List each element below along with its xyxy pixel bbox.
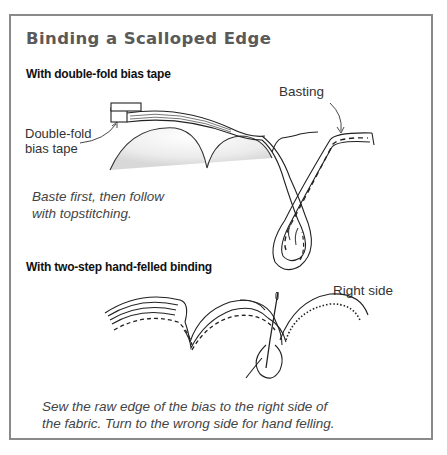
double-fold-bias-illustration <box>80 103 374 270</box>
illustration-layer <box>0 0 447 455</box>
hand-felled-binding-illustration <box>105 292 368 378</box>
